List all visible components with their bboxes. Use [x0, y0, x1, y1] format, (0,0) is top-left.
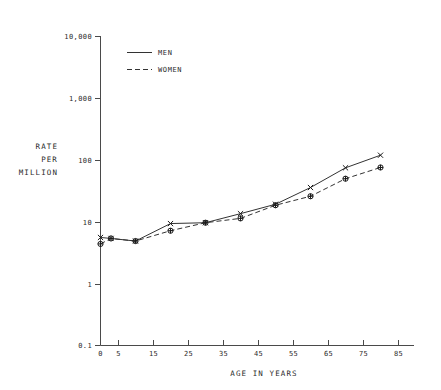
- y-tick-label-10: 10: [83, 219, 92, 227]
- y-axis-title-line1: RATE: [36, 142, 58, 151]
- x-tick-label-55: 55: [289, 350, 298, 358]
- x-tick-label-25: 25: [184, 350, 193, 358]
- x-tick-label-45: 45: [254, 350, 263, 358]
- legend-label-women: WOMEN: [158, 66, 182, 74]
- x-axis-ticks: [101, 340, 399, 346]
- x-tick-label-75: 75: [359, 350, 368, 358]
- series-markers-women: [98, 165, 383, 247]
- x-tick-label-65: 65: [324, 350, 333, 358]
- series-line-men: [101, 155, 381, 241]
- x-tick-label-5: 5: [116, 350, 121, 358]
- legend-label-men: MEN: [158, 49, 172, 57]
- line-chart: 10,000 1,000 100 10 1 0.1 0 5 15 25 35 4…: [0, 0, 441, 390]
- series-markers-men: [98, 153, 383, 244]
- y-tick-label-100: 100: [78, 157, 92, 165]
- data-series-layer: [98, 153, 383, 247]
- y-axis-title-line2: PER: [41, 155, 58, 164]
- series-line-women: [101, 167, 381, 243]
- y-axis-ticks: [95, 37, 101, 346]
- x-tick-label-0: 0: [98, 350, 103, 358]
- y-axis-title-line3: MILLION: [19, 168, 58, 177]
- chart-legend: MEN WOMEN: [127, 49, 182, 74]
- y-tick-label-1: 1: [87, 281, 92, 289]
- y-tick-label-1000: 1,000: [69, 95, 92, 103]
- y-tick-label-0.1: 0.1: [78, 342, 92, 350]
- y-tick-label-10000: 10,000: [64, 33, 92, 41]
- x-tick-label-15: 15: [149, 350, 158, 358]
- x-tick-label-85: 85: [394, 350, 403, 358]
- chart-page: 10,000 1,000 100 10 1 0.1 0 5 15 25 35 4…: [0, 0, 441, 390]
- x-tick-label-35: 35: [219, 350, 228, 358]
- x-axis-title: AGE IN YEARS: [230, 369, 297, 378]
